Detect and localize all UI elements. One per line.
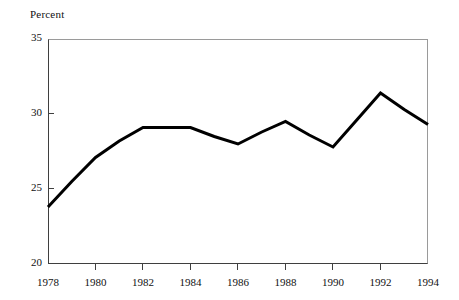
y-axis-title: Percent [30, 8, 64, 20]
x-axis-tick-label: 1992 [370, 276, 392, 288]
y-axis-tick-label: 25 [31, 181, 42, 193]
x-axis-tick-label: 1986 [227, 276, 249, 288]
x-axis-tick-mark [190, 264, 191, 270]
x-axis-tick-label: 1990 [322, 276, 344, 288]
x-axis-tick-label: 1978 [37, 276, 59, 288]
y-axis-tick-label: 30 [31, 106, 42, 118]
x-axis-tick-mark [95, 264, 96, 270]
x-axis-tick-label: 1984 [180, 276, 202, 288]
plot-area [48, 39, 428, 264]
y-axis-tick-label: 20 [31, 256, 42, 268]
x-axis-tick-mark [285, 264, 286, 270]
x-axis-tick-mark [142, 264, 143, 270]
x-axis-tick-label: 1980 [85, 276, 107, 288]
x-axis-tick-label: 1982 [132, 276, 154, 288]
y-axis-tick-label: 35 [31, 31, 42, 43]
series-line-percent [48, 39, 428, 264]
x-axis-tick-label: 1988 [275, 276, 297, 288]
line-chart: Percent 20253035197819801982198419861988… [0, 0, 459, 300]
series-polyline [48, 93, 428, 207]
x-axis-tick-mark [332, 264, 333, 270]
x-axis-tick-mark [380, 264, 381, 270]
x-axis-tick-mark [237, 264, 238, 270]
x-axis-tick-label: 1994 [417, 276, 439, 288]
